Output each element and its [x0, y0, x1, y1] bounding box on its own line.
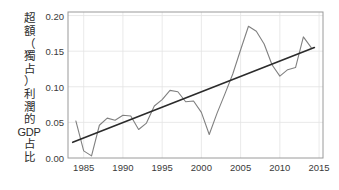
y-tick-label: 0.05: [32, 117, 64, 128]
chart-figure: 超 額 （ 獨 占 ） 利 潤 的 GDP 占 比 0.00 0.05 0.10…: [0, 0, 339, 190]
x-tick-label: 2015: [308, 162, 329, 173]
x-tick-label: 1985: [73, 162, 94, 173]
x-tick-label: 2010: [269, 162, 290, 173]
x-tick-label: 1995: [152, 162, 173, 173]
x-tick-label: 2000: [191, 162, 212, 173]
plot-background: [68, 12, 323, 158]
y-tick-label: 0.15: [32, 46, 64, 57]
x-tick-label: 2005: [230, 162, 251, 173]
y-tick-label: 0.20: [32, 10, 64, 21]
x-axis-ticks: 1985 1990 1995 2000 2005 2010 2015: [0, 162, 339, 180]
y-tick-label: 0.10: [32, 81, 64, 92]
x-tick-label: 1990: [112, 162, 133, 173]
